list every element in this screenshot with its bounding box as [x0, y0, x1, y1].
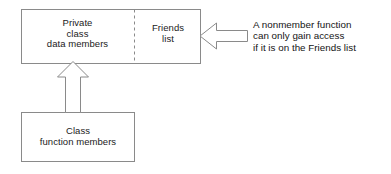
private-data-box-label: Private class data members	[21, 18, 134, 50]
class-function-members-box-label: Class function members	[21, 126, 135, 147]
member-access-arrow-icon	[58, 62, 89, 113]
friends-list-box-label: Friends list	[135, 23, 201, 44]
nonmember-annotation-text: A nonmember function can only gain acces…	[253, 19, 391, 53]
annotation-arrow-icon	[200, 23, 248, 49]
diagram-canvas: Private class data members Friends list …	[0, 0, 391, 174]
